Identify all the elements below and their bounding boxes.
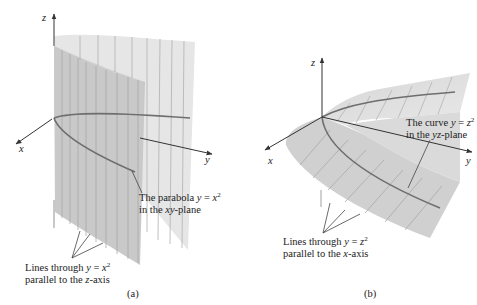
axis-label-y: y [466,155,471,166]
math-exp: 2 [217,191,221,199]
figure-a-surface [54,35,195,265]
annotation-text: -axis [89,274,109,285]
annotation-text: The parabola [139,192,197,203]
axis-label-z: z [311,57,315,68]
axis-label-x: x [19,143,24,154]
axis-label-z: z [42,12,46,23]
caption-b: (b) [364,288,376,299]
axis-label-x: x [268,155,273,166]
math-eq: = [456,117,467,128]
annotation-curve: The curve y = z2 in the yz-plane [406,117,474,141]
annotation-text: The curve [406,117,451,128]
math-eq: = [349,236,360,247]
annotation-text: Lines through [25,262,86,273]
annotation-parabola: The parabola y = x2 in the xy-plane [139,192,221,216]
annotation-text: -plane [441,129,467,140]
math-var: yz [432,129,441,140]
annotation-rulings: Lines through y = z2 parallel to the x-a… [283,236,368,260]
annotation-text: in the [139,204,165,215]
math-eq: = [91,262,102,273]
math-exp: 2 [364,235,368,243]
math-eq: = [201,192,212,203]
annotation-text: -axis [348,248,368,259]
math-var: xy [165,204,174,215]
annotation-text: in the [406,129,432,140]
annotation-rulings: Lines through y = x2 parallel to the z-a… [25,262,110,286]
annotation-text: Lines through [283,236,344,247]
figure-canvas [0,0,477,305]
math-exp: 2 [107,261,111,269]
caption-a: (a) [127,288,139,299]
math-exp: 2 [471,116,475,124]
axis-label-y: y [205,154,210,165]
annotation-text: -plane [175,204,201,215]
annotation-text: parallel to the [25,274,85,285]
annotation-text: parallel to the [283,248,343,259]
figure-b-surface [286,73,470,238]
